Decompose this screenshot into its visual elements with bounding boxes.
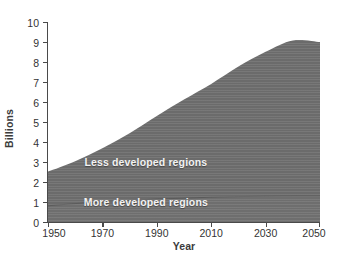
- y-tick-label: 9: [33, 37, 39, 48]
- series-annotation-label: Less developed regions: [84, 156, 207, 168]
- x-tick-label: 1970: [91, 228, 114, 239]
- y-tick-label: 8: [33, 57, 39, 68]
- plot-area: 012345678910 195019701990201020302050 Le…: [48, 22, 320, 222]
- chart-figure: Billions 012345678910 195019701990201020…: [0, 0, 341, 257]
- x-tick-label: 1950: [42, 228, 65, 239]
- x-axis-line: [47, 222, 320, 223]
- y-tick-label: 2: [33, 177, 39, 188]
- x-axis-title: Year: [48, 240, 320, 252]
- series-annotation-label: More developed regions: [84, 196, 208, 208]
- x-tick-label: 1990: [145, 228, 168, 239]
- area-total-population: [48, 40, 320, 222]
- y-tick-label: 0: [33, 217, 39, 228]
- y-tick-label: 1: [33, 197, 39, 208]
- y-tick-label: 7: [33, 77, 39, 88]
- x-tick-label: 2030: [254, 228, 277, 239]
- y-axis-line: [47, 22, 48, 222]
- y-tick-label: 5: [33, 117, 39, 128]
- stacked-area-svg: [48, 22, 320, 222]
- area-series-group: [48, 40, 320, 222]
- y-tick-label: 4: [33, 137, 39, 148]
- x-tick-label: 2010: [200, 228, 223, 239]
- x-tick-label: 2050: [302, 228, 325, 239]
- y-tick-label: 10: [27, 17, 39, 28]
- y-axis-title: Billions: [0, 0, 18, 257]
- y-tick-label: 6: [33, 97, 39, 108]
- y-tick-label: 3: [33, 157, 39, 168]
